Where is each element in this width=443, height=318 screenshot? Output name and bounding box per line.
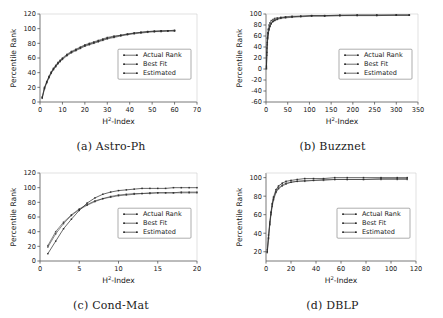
series-marker [57,63,59,64]
subcaption-astro-ph: (a) Astro-Ph [0,140,222,153]
legend-sample-marker [136,63,138,65]
chart-svg-buzznet: 050100150200250300350-60-40-200204060801… [222,0,443,134]
series-marker [196,187,198,189]
series-marker [181,191,183,193]
y-tick-label: 120 [23,10,36,18]
chart-svg-cond-mat: 05101520020406080100120H2-IndexPercentil… [0,159,222,293]
series-marker [396,14,398,16]
series-marker [86,204,88,206]
series-marker [304,178,306,180]
series-marker [267,44,269,46]
chart-svg-astro-ph: 010203040506070020406080100120H2-IndexPe… [0,0,222,134]
series-marker [80,46,82,48]
series-marker [274,20,276,22]
x-tick-label: 20 [193,265,201,273]
legend-sample-marker [357,72,359,74]
series-marker [59,61,61,63]
series-marker [55,231,57,233]
legend-sample-marker [355,213,357,215]
y-tick-label: 20 [254,248,262,256]
y-tick-label: 80 [254,21,262,29]
legend-sample-marker [355,222,357,224]
series-marker [272,206,274,208]
series-marker [272,19,274,21]
y-tick-label: 120 [23,169,36,177]
legend-label: Actual Rank [143,210,182,218]
x-tick-label: 120 [410,265,423,273]
series-marker [149,192,151,194]
series-marker [188,187,190,189]
series-marker [71,51,73,53]
series-marker [269,224,271,226]
series-marker [181,187,183,189]
series-marker [272,21,274,23]
series-marker [133,193,135,195]
legend-label: Best Fit [143,60,168,68]
legend-sample-marker [136,72,138,74]
legend-label: Estimated [143,228,176,236]
series-marker [297,179,299,181]
x-tick-label: 50 [148,106,156,114]
series-marker [149,188,151,190]
series-marker [141,193,143,195]
subcaption-cond-mat: (c) Cond-Mat [0,299,222,312]
x-tick-label: 350 [412,106,425,114]
x-axis-title: H2-Index [325,275,358,285]
series-marker [165,192,167,194]
series-marker [86,202,88,204]
series-marker [94,197,96,199]
series-marker [267,38,269,40]
legend-sample-marker [123,222,125,224]
series-marker [102,198,104,200]
series-marker [147,32,149,34]
series-marker [84,46,86,48]
series-marker [268,24,270,26]
y-tick-label: 40 [28,228,36,236]
plot-astro-ph: 010203040506070020406080100120H2-IndexPe… [0,0,222,134]
series-marker [380,179,382,181]
series-marker [47,246,49,248]
series-marker [84,44,86,46]
series-marker [98,41,100,43]
x-tick-label: 5 [77,265,81,273]
x-tick-label: 70 [193,106,201,114]
x-tick-label: 40 [126,106,134,114]
legend-sample-marker [344,63,346,65]
legend-label: Actual Rank [362,210,401,218]
series-marker [173,187,175,189]
y-tick-label: 0 [32,98,36,106]
series-marker [133,33,135,35]
series-marker [62,59,64,61]
legend-sample-marker [136,213,138,215]
series-marker [102,40,104,42]
series-marker [334,177,336,179]
x-tick-label: 150 [325,106,338,114]
figure-grid: 010203040506070020406080100120H2-IndexPe… [0,0,443,318]
series-marker [75,48,77,50]
x-tick-label: 20 [287,265,295,273]
series-marker [268,238,270,240]
series-marker [173,192,175,194]
panel-cond-mat: 05101520020406080100120H2-IndexPercentil… [0,159,222,318]
legend-label: Estimated [362,228,395,236]
panel-astro-ph: 010203040506070020406080100120H2-IndexPe… [0,0,222,159]
y-tick-label: 60 [28,213,36,221]
series-marker [71,214,73,216]
series-marker [282,185,284,187]
series-marker [267,34,269,36]
x-tick-label: 200 [347,106,360,114]
y-axis-title: Percentile Rank [9,28,18,87]
series-marker [53,69,55,71]
series-marker [47,245,49,247]
x-tick-label: 15 [154,265,162,273]
series-marker [285,17,287,19]
series-marker [71,218,73,220]
series-marker [304,181,306,183]
x-axis-title: H2-Index [102,116,135,126]
x-tick-label: 100 [385,265,398,273]
y-tick-label: 80 [254,193,262,201]
series-marker [363,177,365,179]
series-marker [66,55,68,57]
series-marker [297,181,299,183]
series-marker [63,221,65,223]
